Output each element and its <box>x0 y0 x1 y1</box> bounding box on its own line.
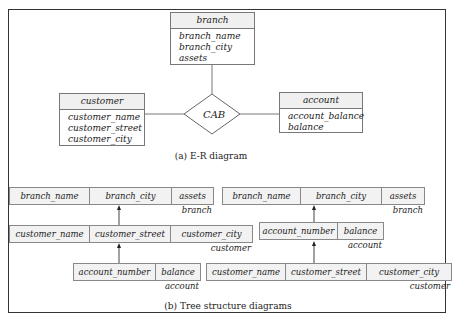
record-label: customer <box>180 243 251 253</box>
attribute: branch_name <box>179 31 254 42</box>
left-tree-root-record: branch_name branch_city assets <box>9 187 214 205</box>
entity-branch: branch branch_name branch_city assets <box>170 12 255 65</box>
field: assets <box>172 188 213 204</box>
field: branch_name <box>223 188 301 204</box>
attribute: assets <box>179 53 254 64</box>
field: customer_city <box>367 264 451 280</box>
field: customer_street <box>286 264 367 280</box>
er-caption: (a) E-R diagram <box>175 151 248 161</box>
field: account_number <box>260 223 338 239</box>
attribute: customer_name <box>68 112 144 123</box>
entity-name: branch <box>171 13 254 29</box>
field: customer_name <box>207 264 286 280</box>
field: customer_name <box>10 226 90 242</box>
record-label: customer <box>390 281 450 291</box>
record-label: branch <box>370 205 423 215</box>
field: account_number <box>74 264 156 280</box>
field: balance <box>338 223 383 239</box>
attribute: customer_street <box>68 123 144 134</box>
field: branch_city <box>301 188 382 204</box>
record-label: branch <box>150 205 212 215</box>
entity-customer: customer customer_name customer_street c… <box>59 93 145 146</box>
field: balance <box>156 264 200 280</box>
field: branch_name <box>10 188 90 204</box>
attribute: balance <box>288 122 362 133</box>
relationship-label: CAB <box>203 109 225 120</box>
entity-name: account <box>280 93 362 109</box>
field: customer_city <box>171 226 252 242</box>
right-tree-root-record: branch_name branch_city assets <box>222 187 425 205</box>
record-label: account <box>330 240 382 250</box>
attribute: branch_city <box>179 42 254 53</box>
right-tree-leaf-record: customer_name customer_street customer_c… <box>206 263 452 281</box>
left-tree-middle-record: customer_name customer_street customer_c… <box>9 225 253 243</box>
record-label: account <box>150 281 199 291</box>
tree-caption: (b) Tree structure diagrams <box>164 301 291 311</box>
attribute: customer_city <box>68 134 144 145</box>
field: customer_street <box>90 226 171 242</box>
left-tree-leaf-record: account_number balance <box>73 263 201 281</box>
entity-name: customer <box>60 94 144 110</box>
field: branch_city <box>90 188 172 204</box>
entity-account: account account_balance balance <box>279 92 363 133</box>
right-tree-middle-record: account_number balance <box>259 222 384 240</box>
field: assets <box>382 188 424 204</box>
attribute: account_balance <box>288 111 362 122</box>
